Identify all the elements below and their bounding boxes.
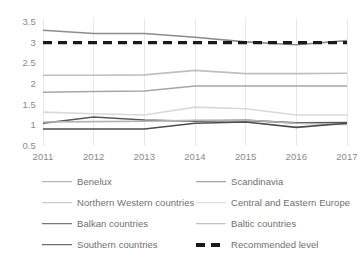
y-axis-tick-3-5: 3.5 (2, 17, 36, 27)
legend-row: Northern Western countries Central and E… (0, 193, 355, 212)
legend-swatch-recommended-level (196, 240, 226, 250)
x-axis-tick-2015: 2015 (226, 152, 266, 162)
legend-swatch-baltic-countries (196, 219, 226, 229)
legend-item-central-and-eastern-europe[interactable]: Central and Eastern Europe (196, 193, 350, 212)
legend-swatch-scandinavia (196, 177, 226, 187)
x-axis-tick-2011: 2011 (23, 152, 63, 162)
legend-swatch-central-and-eastern-europe (196, 198, 226, 208)
plot-canvas (0, 0, 355, 170)
legend-label-central-and-eastern-europe: Central and Eastern Europe (231, 197, 350, 208)
y-axis-tick-1-5: 1.5 (2, 100, 36, 110)
legend-label-recommended-level: Recommended level (231, 239, 318, 250)
legend-swatch-northern-western-countries (42, 198, 72, 208)
legend-label-balkan-countries: Balkan countries (77, 218, 148, 229)
legend-item-scandinavia[interactable]: Scandinavia (196, 172, 283, 191)
y-axis-tick-2: 2 (2, 79, 36, 89)
legend-swatch-balkan-countries (42, 219, 72, 229)
legend-swatch-southern-countries (42, 240, 72, 250)
legend-item-baltic-countries[interactable]: Baltic countries (196, 214, 296, 233)
chart-legend: Benelux Scandinavia Northern Western cou… (0, 172, 355, 257)
y-axis-tick-1: 1 (2, 120, 36, 130)
x-axis-tick-2016: 2016 (276, 152, 316, 162)
y-axis-tick-3: 3 (2, 38, 36, 48)
legend-row: Benelux Scandinavia (0, 172, 355, 191)
x-axis-tick-2013: 2013 (124, 152, 164, 162)
legend-label-southern-countries: Southern countries (77, 239, 158, 250)
y-axis-tick-0-5: 0.5 (2, 141, 36, 151)
legend-label-scandinavia: Scandinavia (231, 176, 283, 187)
legend-label-northern-western-countries: Northern Western countries (77, 197, 194, 208)
x-axis-tick-2017: 2017 (327, 152, 362, 162)
legend-item-northern-western-countries[interactable]: Northern Western countries (42, 193, 194, 212)
x-axis-tick-2012: 2012 (74, 152, 114, 162)
legend-item-recommended-level[interactable]: Recommended level (196, 235, 318, 254)
legend-swatch-benelux (42, 177, 72, 187)
legend-label-baltic-countries: Baltic countries (231, 218, 296, 229)
x-axis-tick-2014: 2014 (175, 152, 215, 162)
y-axis-tick-2-5: 2.5 (2, 58, 36, 68)
legend-row: Southern countries Recommended level (0, 235, 355, 254)
legend-item-southern-countries[interactable]: Southern countries (42, 235, 158, 254)
legend-item-benelux[interactable]: Benelux (42, 172, 112, 191)
legend-item-balkan-countries[interactable]: Balkan countries (42, 214, 148, 233)
legend-label-benelux: Benelux (77, 176, 112, 187)
plot-area: 0.511.522.533.5 201120122013201420152016… (0, 0, 355, 170)
legend-row: Balkan countries Baltic countries (0, 214, 355, 233)
